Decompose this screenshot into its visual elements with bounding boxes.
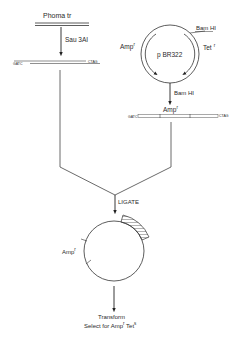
ligate-label: LIGATE: [118, 199, 139, 205]
fragment-ctag-end: CTAG: [88, 60, 98, 64]
right-branch: Bam HI p BR322 Ampr Tetr Bam HI Ampr GAT…: [115, 25, 229, 195]
amp-gene-arrow: [145, 34, 156, 74]
phoma-label: Phoma tr: [43, 12, 72, 19]
insert-fragment-hatched: [121, 215, 149, 240]
plasmid-tick-2: [86, 260, 91, 264]
cloning-diagram: Phoma tr Sau 3AI GATC CTAG Bam HI p BR32…: [0, 0, 232, 344]
linear-gatc-end: GATC: [128, 115, 138, 119]
linear-plasmid-strands: [138, 115, 218, 118]
right-connector-line: [115, 122, 171, 195]
sau3ai-label: Sau 3AI: [65, 36, 88, 43]
tet-label: Tetr: [203, 43, 216, 51]
select-label: Select for Ampr Tets: [84, 321, 137, 329]
bamhi-site-label: Bam HI: [196, 25, 216, 31]
recombinant-plasmid-circle: [84, 221, 144, 281]
final-step: Transform Select for Ampr Tets: [84, 286, 137, 329]
linear-amp-label: Ampr: [163, 105, 178, 114]
diagram-svg: Phoma tr Sau 3AI GATC CTAG Bam HI p BR32…: [0, 0, 232, 344]
product-amp-label: Ampr: [62, 247, 76, 255]
linear-ctag-end: CTAG: [219, 114, 229, 118]
recombinant-plasmid: Ampr: [62, 215, 149, 281]
transform-label: Transform: [98, 314, 125, 320]
tet-gene-arrow: [184, 34, 195, 74]
amp-label: Ampr: [120, 42, 135, 51]
fragment-gatc-end: GATC: [13, 62, 23, 66]
left-branch: Phoma tr Sau 3AI GATC CTAG: [13, 12, 115, 195]
bamhi-cut-label: Bam HI: [174, 90, 194, 96]
left-connector-line: [60, 70, 115, 195]
ligate-step: LIGATE: [115, 195, 139, 212]
pbr322-label: p BR322: [157, 51, 183, 59]
